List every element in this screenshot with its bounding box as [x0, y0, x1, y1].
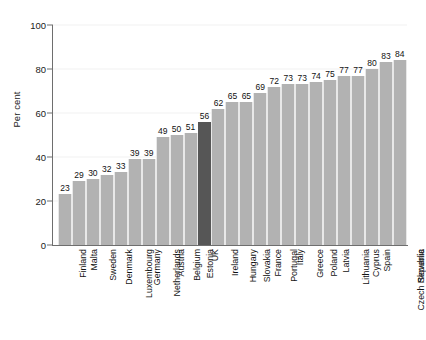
bar[interactable] [239, 102, 253, 245]
y-tick-label: 20 [14, 196, 46, 207]
bar-item[interactable]: 83 [379, 25, 393, 245]
bar-value-label: 75 [325, 69, 334, 79]
y-tick-label: 100 [14, 20, 46, 31]
bar[interactable] [142, 159, 156, 245]
x-label-slot: Netherlands [142, 249, 156, 340]
bar[interactable] [128, 159, 142, 245]
bar[interactable] [58, 194, 72, 245]
bar[interactable] [323, 80, 337, 245]
x-label-slot: Sweden [86, 249, 100, 340]
x-label-slot: Estonia [184, 249, 198, 340]
bar-value-label: 77 [353, 65, 362, 75]
x-tick-label: Slovenia [417, 249, 426, 283]
x-label-slot: Lithuania [337, 249, 351, 340]
x-label-slot: Czech Republic [379, 249, 393, 340]
bar-item[interactable]: 69 [253, 25, 267, 245]
bar-item[interactable]: 65 [239, 25, 253, 245]
bar-value-label: 65 [242, 91, 251, 101]
bar-value-label: 39 [144, 148, 153, 158]
bar-item[interactable]: 80 [365, 25, 379, 245]
bar[interactable] [267, 87, 281, 245]
bar-item[interactable]: 49 [156, 25, 170, 245]
bar[interactable] [211, 109, 225, 245]
bar[interactable] [114, 172, 128, 245]
bar[interactable] [225, 102, 239, 245]
bar-value-label: 84 [395, 49, 404, 59]
x-label-slot: France [253, 249, 267, 340]
bar-value-label: 73 [297, 73, 306, 83]
bar[interactable] [170, 135, 184, 245]
bar[interactable] [393, 60, 407, 245]
y-tick-label: 40 [14, 152, 46, 163]
bar[interactable] [184, 133, 198, 245]
bar[interactable] [337, 76, 351, 245]
bar-value-label: 74 [311, 71, 320, 81]
x-label-slot: Cyprus [351, 249, 365, 340]
bar[interactable] [100, 175, 114, 245]
x-label-slot: Denmark [100, 249, 114, 340]
y-tick-label: 0 [14, 240, 46, 251]
bar-value-label: 65 [228, 91, 237, 101]
bar-item[interactable]: 32 [100, 25, 114, 245]
bar-highlighted[interactable] [198, 122, 212, 245]
bar-item[interactable]: 39 [142, 25, 156, 245]
bar-item[interactable]: 75 [323, 25, 337, 245]
bar-item[interactable]: 73 [295, 25, 309, 245]
bar-value-label: 39 [130, 148, 139, 158]
bar-series: 2329303233393949505156626565697273737475… [58, 25, 407, 245]
x-label-slot: Ireland [211, 249, 225, 340]
bar-value-label: 50 [172, 124, 181, 134]
bar-item[interactable]: 77 [351, 25, 365, 245]
bar[interactable] [295, 84, 309, 245]
bar[interactable] [351, 76, 365, 245]
x-label-slot: Greece [295, 249, 309, 340]
x-axis-labels: FinlandMaltaSwedenDenmarkLuxembourgGerma… [58, 249, 407, 340]
bar-item[interactable]: 39 [128, 25, 142, 245]
bar-item[interactable]: 29 [72, 25, 86, 245]
bar-value-label: 62 [214, 98, 223, 108]
bar[interactable] [379, 62, 393, 245]
bar-value-label: 29 [74, 170, 83, 180]
x-label-slot: Germany [128, 249, 142, 340]
bar-item[interactable]: 65 [225, 25, 239, 245]
bar[interactable] [156, 137, 170, 245]
x-label-slot: Spain [365, 249, 379, 340]
bar[interactable] [365, 69, 379, 245]
bar[interactable] [281, 84, 295, 245]
bar-value-label: 30 [88, 168, 97, 178]
bar[interactable] [309, 82, 323, 245]
bar-item[interactable]: 23 [58, 25, 72, 245]
bar-item[interactable]: 72 [267, 25, 281, 245]
bar-item[interactable]: 33 [114, 25, 128, 245]
bar[interactable] [86, 179, 100, 245]
y-tick-label: 80 [14, 64, 46, 75]
x-label-slot: Portugal [267, 249, 281, 340]
bar-item[interactable]: 84 [393, 25, 407, 245]
bar-value-label: 72 [270, 76, 279, 86]
x-label-slot: Slovakia [239, 249, 253, 340]
bar-item[interactable]: 77 [337, 25, 351, 245]
bar-item[interactable]: 73 [281, 25, 295, 245]
bar-item[interactable]: 30 [86, 25, 100, 245]
x-label-slot: Malta [72, 249, 86, 340]
x-label-slot: Italy [281, 249, 295, 340]
bar-value-label: 73 [283, 73, 292, 83]
bar-item[interactable]: 56 [198, 25, 212, 245]
bar[interactable] [72, 181, 86, 245]
bar[interactable] [253, 93, 267, 245]
bar-item[interactable]: 50 [170, 25, 184, 245]
y-tick-label: 60 [14, 108, 46, 119]
bar-item[interactable]: 74 [309, 25, 323, 245]
bar-value-label: 77 [339, 65, 348, 75]
bar-value-label: 69 [256, 82, 265, 92]
bar-item[interactable]: 62 [211, 25, 225, 245]
x-label-slot: Hungary [225, 249, 239, 340]
x-label-slot: Poland [309, 249, 323, 340]
x-label-slot: Austria [156, 249, 170, 340]
bar-value-label: 33 [116, 161, 125, 171]
x-label-slot: UK [198, 249, 212, 340]
x-label-slot: Finland [58, 249, 72, 340]
bar-value-label: 51 [186, 122, 195, 132]
bar-item[interactable]: 51 [184, 25, 198, 245]
